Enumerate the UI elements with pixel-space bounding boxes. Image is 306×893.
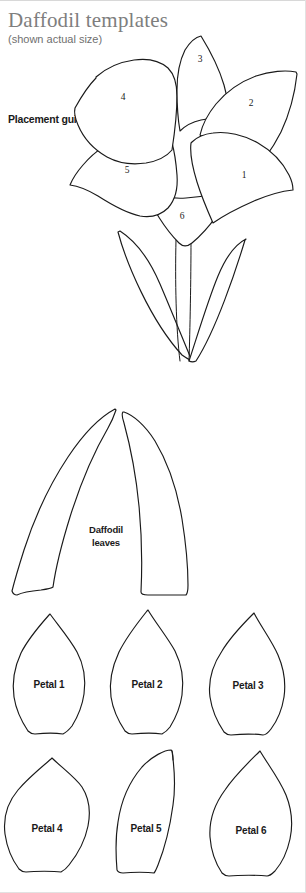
- guide-number-5: 5: [125, 165, 130, 175]
- petal-templates-row-1: Petal 1 Petal 2 Petal 3: [0, 605, 306, 750]
- petal-5-shape: [116, 750, 175, 873]
- placement-guide-diagram: 1 2 3 4 5 6: [0, 0, 306, 400]
- daffodil-template-page: Daffodil templates (shown actual size) P…: [0, 0, 306, 893]
- guide-number-6: 6: [180, 211, 185, 221]
- petal-template-2[interactable]: Petal 2: [110, 610, 182, 734]
- petal-6-shape: [210, 751, 292, 876]
- petal-template-4[interactable]: Petal 4: [5, 758, 90, 872]
- petal-3-shape: [210, 613, 285, 735]
- petal-6-label: Petal 6: [236, 825, 267, 836]
- daffodil-leaves-section: Daffodil leaves: [0, 395, 306, 610]
- petal-2-label: Petal 2: [132, 679, 163, 690]
- petal-5-label: Petal 5: [131, 823, 162, 834]
- petal-1-label: Petal 1: [34, 679, 65, 690]
- leaves-label-line2: leaves: [92, 537, 120, 548]
- guide-stem-right-edge: [189, 240, 191, 361]
- petal-2-shape: [110, 610, 182, 734]
- guide-number-1: 1: [242, 170, 247, 180]
- guide-leaf-left: [118, 231, 192, 361]
- petal-template-6[interactable]: Petal 6: [210, 751, 292, 876]
- leaf-template-right: [122, 412, 188, 595]
- petal-template-5[interactable]: Petal 5: [116, 750, 175, 873]
- leaves-label-line1: Daffodil: [89, 524, 123, 535]
- guide-petal-4: [75, 59, 177, 163]
- guide-number-2: 2: [249, 98, 254, 108]
- guide-number-3: 3: [198, 54, 203, 64]
- petal-3-label: Petal 3: [233, 680, 264, 691]
- petal-4-shape: [5, 758, 90, 872]
- petal-1-shape: [13, 614, 84, 734]
- guide-leaf-right: [189, 239, 246, 362]
- guide-number-4: 4: [121, 92, 126, 102]
- petal-4-label: Petal 4: [32, 823, 63, 834]
- leaf-template-left: [12, 409, 116, 595]
- petal-template-1: Petal 1: [13, 614, 84, 734]
- petal-template-3[interactable]: Petal 3: [210, 613, 285, 735]
- petal-templates-row-2: Petal 4 Petal 5 Petal 6: [0, 745, 306, 893]
